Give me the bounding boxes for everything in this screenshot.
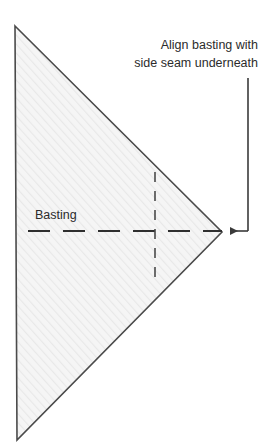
align-note-line-1: Align basting with bbox=[161, 38, 258, 52]
fabric-triangle bbox=[15, 26, 222, 440]
diagram-svg: Align basting with side seam underneath … bbox=[0, 0, 270, 448]
basting-label: Basting bbox=[35, 208, 77, 222]
align-note-line-2: side seam underneath bbox=[134, 56, 258, 70]
diagram-canvas: Align basting with side seam underneath … bbox=[0, 0, 270, 448]
